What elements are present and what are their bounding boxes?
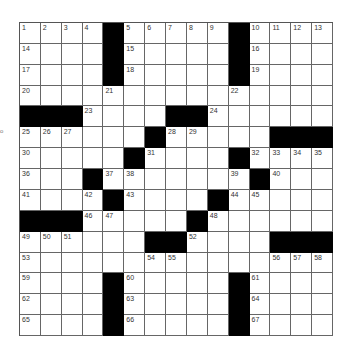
grid-cell[interactable]: 27 [62, 127, 83, 148]
grid-cell[interactable]: 33 [270, 148, 291, 169]
grid-cell[interactable] [291, 65, 312, 86]
grid-cell[interactable] [103, 253, 124, 274]
grid-cell[interactable]: 62 [20, 294, 41, 315]
grid-cell[interactable]: 6 [145, 23, 166, 44]
grid-cell[interactable] [166, 211, 187, 232]
grid-cell[interactable]: 60 [124, 273, 145, 294]
grid-cell[interactable]: 16 [250, 44, 271, 65]
grid-cell[interactable]: 22 [229, 86, 250, 107]
grid-cell[interactable]: 31 [145, 148, 166, 169]
grid-cell[interactable] [229, 211, 250, 232]
grid-cell[interactable] [312, 65, 333, 86]
grid-cell[interactable] [270, 106, 291, 127]
grid-cell[interactable] [208, 65, 229, 86]
grid-cell[interactable]: 44 [229, 190, 250, 211]
grid-cell[interactable]: 24 [208, 106, 229, 127]
grid-cell[interactable] [187, 315, 208, 336]
grid-cell[interactable] [124, 127, 145, 148]
grid-cell[interactable] [187, 294, 208, 315]
grid-cell[interactable] [166, 65, 187, 86]
grid-cell[interactable] [166, 86, 187, 107]
grid-cell[interactable] [124, 253, 145, 274]
grid-cell[interactable] [62, 86, 83, 107]
grid-cell[interactable]: 20 [20, 86, 41, 107]
grid-cell[interactable] [312, 190, 333, 211]
grid-cell[interactable]: 49 [20, 232, 41, 253]
grid-cell[interactable] [208, 273, 229, 294]
grid-cell[interactable]: 55 [166, 253, 187, 274]
grid-cell[interactable] [62, 273, 83, 294]
grid-cell[interactable]: 4 [83, 23, 104, 44]
grid-cell[interactable] [312, 169, 333, 190]
grid-cell[interactable] [270, 190, 291, 211]
grid-cell[interactable]: 67 [250, 315, 271, 336]
grid-cell[interactable] [229, 253, 250, 274]
grid-cell[interactable] [166, 294, 187, 315]
grid-cell[interactable] [291, 211, 312, 232]
grid-cell[interactable] [62, 65, 83, 86]
grid-cell[interactable]: 37 [103, 169, 124, 190]
grid-cell[interactable]: 65 [20, 315, 41, 336]
grid-cell[interactable]: 17 [20, 65, 41, 86]
grid-cell[interactable]: 61 [250, 273, 271, 294]
grid-cell[interactable] [187, 273, 208, 294]
grid-cell[interactable]: 34 [291, 148, 312, 169]
grid-cell[interactable]: 15 [124, 44, 145, 65]
grid-cell[interactable] [270, 65, 291, 86]
grid-cell[interactable]: 64 [250, 294, 271, 315]
grid-cell[interactable]: 29 [187, 127, 208, 148]
grid-cell[interactable] [124, 232, 145, 253]
grid-cell[interactable] [208, 86, 229, 107]
grid-cell[interactable] [208, 148, 229, 169]
grid-cell[interactable] [250, 86, 271, 107]
grid-cell[interactable] [145, 211, 166, 232]
grid-cell[interactable] [166, 190, 187, 211]
grid-cell[interactable] [187, 253, 208, 274]
grid-cell[interactable]: 56 [270, 253, 291, 274]
grid-cell[interactable] [83, 148, 104, 169]
grid-cell[interactable] [270, 211, 291, 232]
grid-cell[interactable] [145, 86, 166, 107]
grid-cell[interactable] [187, 190, 208, 211]
grid-cell[interactable] [62, 190, 83, 211]
grid-cell[interactable] [291, 86, 312, 107]
grid-cell[interactable] [312, 294, 333, 315]
grid-cell[interactable]: 32 [250, 148, 271, 169]
grid-cell[interactable] [145, 273, 166, 294]
grid-cell[interactable]: 1 [20, 23, 41, 44]
grid-cell[interactable] [187, 169, 208, 190]
grid-cell[interactable] [166, 315, 187, 336]
grid-cell[interactable]: 9 [208, 23, 229, 44]
grid-cell[interactable]: 12 [291, 23, 312, 44]
grid-cell[interactable] [41, 294, 62, 315]
grid-cell[interactable] [312, 44, 333, 65]
grid-cell[interactable]: 50 [41, 232, 62, 253]
grid-cell[interactable] [83, 294, 104, 315]
grid-cell[interactable] [145, 315, 166, 336]
grid-cell[interactable] [291, 169, 312, 190]
grid-cell[interactable]: 8 [187, 23, 208, 44]
grid-cell[interactable] [312, 86, 333, 107]
grid-cell[interactable] [187, 65, 208, 86]
grid-cell[interactable] [312, 106, 333, 127]
grid-cell[interactable]: 36 [20, 169, 41, 190]
grid-cell[interactable] [208, 253, 229, 274]
grid-cell[interactable] [270, 44, 291, 65]
grid-cell[interactable]: 39 [229, 169, 250, 190]
grid-cell[interactable] [208, 315, 229, 336]
grid-cell[interactable] [41, 273, 62, 294]
grid-cell[interactable] [312, 211, 333, 232]
grid-cell[interactable]: 41 [20, 190, 41, 211]
grid-cell[interactable]: 52 [187, 232, 208, 253]
grid-cell[interactable] [103, 232, 124, 253]
grid-cell[interactable] [291, 106, 312, 127]
grid-cell[interactable] [145, 190, 166, 211]
grid-cell[interactable] [270, 86, 291, 107]
grid-cell[interactable] [103, 106, 124, 127]
grid-cell[interactable]: 59 [20, 273, 41, 294]
grid-cell[interactable]: 2 [41, 23, 62, 44]
grid-cell[interactable]: 5 [124, 23, 145, 44]
grid-cell[interactable] [229, 106, 250, 127]
grid-cell[interactable] [208, 169, 229, 190]
grid-cell[interactable]: 43 [124, 190, 145, 211]
